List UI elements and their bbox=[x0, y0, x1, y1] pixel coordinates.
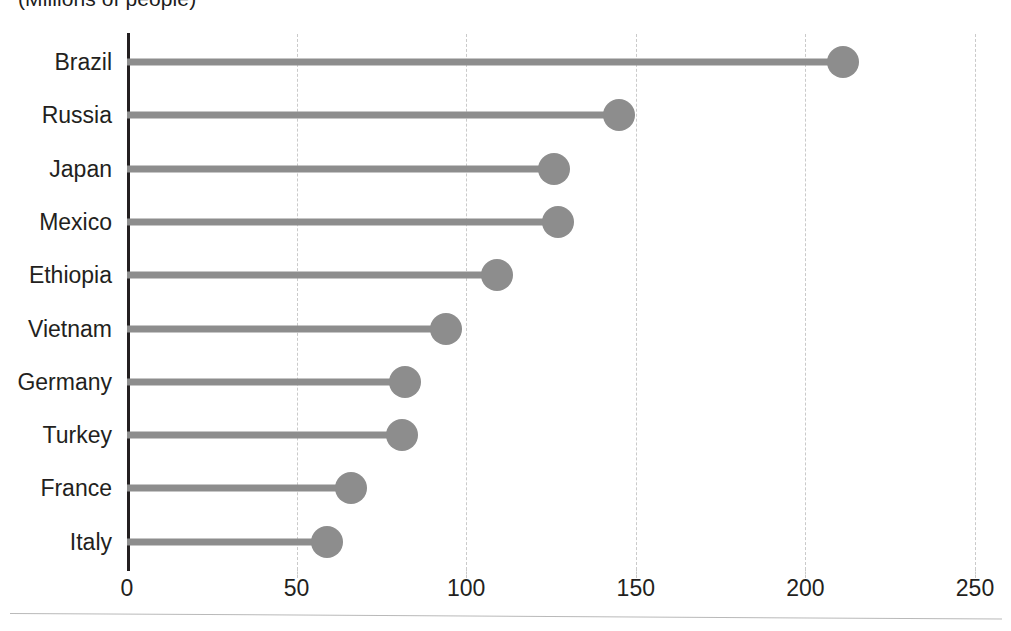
lollipop-dot-japan bbox=[538, 153, 570, 185]
lollipop-stem-vietnam bbox=[127, 325, 446, 332]
gridline-150 bbox=[636, 34, 637, 570]
lollipop-stem-turkey bbox=[127, 432, 402, 439]
lollipop-stem-japan bbox=[127, 165, 554, 172]
x-tick-label: 150 bbox=[617, 575, 655, 602]
category-label-brazil: Brazil bbox=[54, 49, 112, 76]
category-label-vietnam: Vietnam bbox=[28, 315, 112, 342]
category-label-russia: Russia bbox=[42, 102, 112, 129]
x-tick-label: 100 bbox=[447, 575, 485, 602]
lollipop-stem-italy bbox=[127, 538, 327, 545]
category-label-japan: Japan bbox=[49, 155, 112, 182]
x-tick-label: 50 bbox=[284, 575, 310, 602]
category-label-germany: Germany bbox=[17, 368, 112, 395]
lollipop-stem-germany bbox=[127, 378, 405, 385]
x-tick-label: 0 bbox=[121, 575, 134, 602]
category-label-france: France bbox=[40, 475, 112, 502]
gridline-250 bbox=[975, 34, 976, 570]
lollipop-stem-brazil bbox=[127, 59, 843, 66]
lollipop-stem-france bbox=[127, 485, 351, 492]
category-label-mexico: Mexico bbox=[39, 208, 112, 235]
category-label-ethiopia: Ethiopia bbox=[29, 262, 112, 289]
lollipop-dot-turkey bbox=[386, 419, 418, 451]
lollipop-stem-mexico bbox=[127, 218, 558, 225]
lollipop-dot-mexico bbox=[542, 206, 574, 238]
lollipop-stem-russia bbox=[127, 112, 619, 119]
gridline-200 bbox=[805, 34, 806, 570]
category-label-turkey: Turkey bbox=[43, 422, 112, 449]
x-tick-label: 200 bbox=[786, 575, 824, 602]
category-label-italy: Italy bbox=[70, 528, 112, 555]
x-tick-label: 250 bbox=[956, 575, 994, 602]
plot-area: 050100150200250BrazilRussiaJapanMexicoEt… bbox=[0, 0, 1011, 631]
lollipop-chart: (Millions of people) 050100150200250Braz… bbox=[0, 0, 1011, 631]
lollipop-dot-vietnam bbox=[430, 313, 462, 345]
lollipop-stem-ethiopia bbox=[127, 272, 497, 279]
lollipop-dot-brazil bbox=[827, 46, 859, 78]
lollipop-dot-germany bbox=[389, 366, 421, 398]
lollipop-dot-italy bbox=[311, 526, 343, 558]
lollipop-dot-ethiopia bbox=[481, 259, 513, 291]
lollipop-dot-france bbox=[335, 472, 367, 504]
lollipop-dot-russia bbox=[603, 99, 635, 131]
